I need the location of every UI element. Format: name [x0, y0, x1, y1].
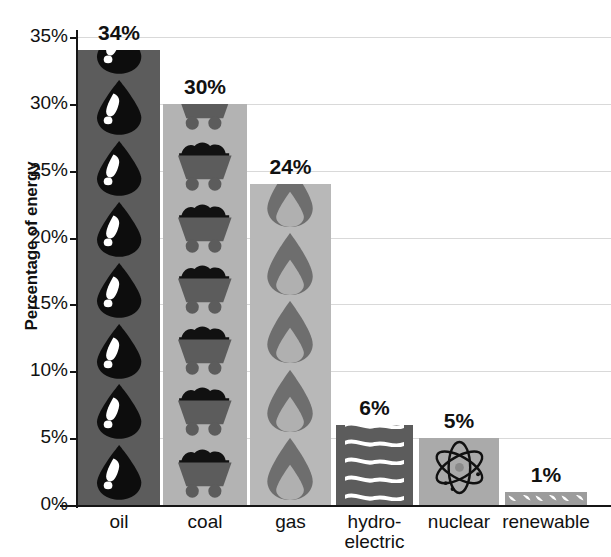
wind-leaf-icon — [507, 494, 518, 503]
water-wave-icon — [345, 492, 404, 501]
y-axis-tick-label: 20% — [8, 226, 68, 248]
wind-leaf-icon — [521, 493, 532, 502]
coal-cart-icon — [172, 321, 238, 378]
y-axis-tick-label: 0% — [8, 493, 68, 515]
icon-slot — [507, 492, 518, 505]
oil-drop-icon — [95, 50, 143, 75]
icon-slot — [547, 492, 558, 505]
icon-slot — [345, 487, 404, 505]
icon-slot — [172, 382, 238, 443]
oil-drop-icon — [95, 140, 143, 197]
category-label-line: electric — [330, 532, 419, 552]
coal-cart-icon — [172, 260, 238, 317]
bar-value-label: 5% — [419, 409, 499, 433]
category-label-line: gas — [244, 512, 337, 532]
x-axis-category-label: oil — [72, 512, 166, 532]
gas-flame-icon — [265, 184, 315, 228]
bar-icon-fill — [250, 184, 331, 505]
category-label-line: coal — [157, 512, 253, 532]
icon-slot — [95, 383, 143, 444]
bar-renewable[interactable] — [505, 492, 587, 505]
icon-row — [505, 492, 587, 505]
category-label-line: nuclear — [413, 512, 505, 532]
y-axis-tick-label: 5% — [8, 426, 68, 448]
icon-slot — [521, 492, 532, 505]
x-axis-line — [60, 505, 611, 507]
oil-drop-icon — [95, 444, 143, 501]
x-axis-category-label: renewable — [499, 512, 593, 532]
category-label-line: oil — [72, 512, 166, 532]
bar-icon-fill — [505, 492, 587, 505]
y-axis-tick-label: 10% — [8, 359, 68, 381]
water-wave-icon — [345, 425, 404, 429]
oil-drop-icon — [95, 383, 143, 440]
wind-leaf-icon — [547, 493, 558, 502]
icon-slot — [534, 492, 545, 505]
y-axis-tick-label: 35% — [8, 25, 68, 47]
bar-value-label: 6% — [336, 396, 413, 420]
x-axis-category-label: gas — [244, 512, 337, 532]
coal-cart-icon — [172, 137, 238, 194]
bar-icon-fill — [419, 438, 499, 505]
icon-slot — [265, 232, 315, 300]
icon-slot — [265, 369, 315, 437]
icon-slot — [95, 201, 143, 262]
icon-slot — [345, 469, 404, 487]
icon-slot — [172, 104, 238, 137]
y-axis-tick-label: 30% — [8, 92, 68, 114]
wind-leaf-icon — [560, 494, 571, 503]
icon-slot — [345, 433, 404, 451]
bar-icon-fill — [163, 104, 247, 505]
icon-slot — [172, 260, 238, 321]
coal-cart-icon — [172, 444, 238, 501]
gas-flame-icon — [265, 437, 315, 501]
icon-slot — [172, 444, 238, 505]
icon-slot — [265, 184, 315, 232]
coal-cart-icon — [172, 199, 238, 256]
icon-slot — [95, 262, 143, 323]
category-label-line: renewable — [499, 512, 593, 532]
y-axis-tick-label: 25% — [8, 159, 68, 181]
bar-icon-fill — [78, 50, 160, 505]
icon-slot — [345, 451, 404, 469]
icon-slot — [265, 437, 315, 505]
plot-area — [78, 37, 611, 505]
bar-oil[interactable] — [78, 50, 160, 505]
icon-slot — [345, 425, 404, 433]
icon-slot — [265, 300, 315, 368]
coal-cart-icon — [172, 104, 238, 133]
x-axis-category-label: coal — [157, 512, 253, 532]
oil-drop-icon — [95, 262, 143, 319]
bar-value-label: 30% — [163, 75, 247, 99]
icon-slot — [172, 137, 238, 198]
bar-gas[interactable] — [250, 184, 331, 505]
oil-drop-icon — [95, 323, 143, 380]
oil-drop-icon — [95, 201, 143, 258]
icon-slot — [430, 438, 489, 501]
icon-slot — [95, 323, 143, 384]
wind-leaf-icon — [534, 494, 545, 503]
water-wave-icon — [345, 474, 404, 483]
icon-slot — [574, 492, 585, 505]
bar-value-label: 1% — [505, 463, 587, 487]
icon-slot — [172, 321, 238, 382]
bar-value-label: 24% — [250, 155, 331, 179]
icon-slot — [95, 444, 143, 505]
energy-percentage-bar-chart: Percentage of energy 0%5%10%15%20%25%30%… — [0, 0, 611, 557]
bar-value-label: 34% — [78, 21, 160, 45]
water-wave-icon — [345, 438, 404, 447]
bar-coal[interactable] — [163, 104, 247, 505]
icon-slot — [95, 79, 143, 140]
gas-flame-icon — [265, 300, 315, 364]
icon-slot — [95, 140, 143, 201]
icon-slot — [95, 50, 143, 79]
category-label-line: hydro- — [330, 512, 419, 532]
wind-leaf-icon — [574, 493, 585, 502]
coal-cart-icon — [172, 382, 238, 439]
gas-flame-icon — [265, 232, 315, 296]
x-axis-category-label: nuclear — [413, 512, 505, 532]
icon-slot — [560, 492, 571, 505]
bar-hydro-electric[interactable] — [336, 425, 413, 505]
bar-nuclear[interactable] — [419, 438, 499, 505]
gas-flame-icon — [265, 369, 315, 433]
